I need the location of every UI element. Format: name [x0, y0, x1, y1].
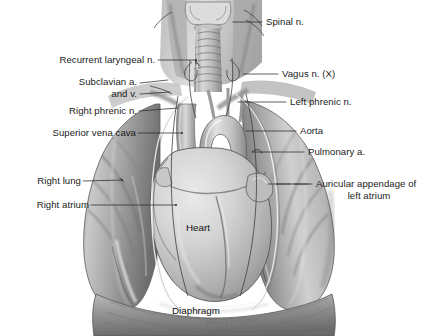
label-text: Right atrium	[37, 199, 89, 210]
label-aorta: Aorta	[300, 125, 323, 137]
label-text-line2: and v.	[79, 88, 137, 100]
label-text-line2: left atrium	[316, 190, 422, 202]
label-text: Spinal n.	[266, 16, 304, 27]
anatomy-figure: Recurrent laryngeal n. Subclavian a. and…	[0, 0, 425, 336]
label-right-lung: Right lung	[37, 175, 81, 187]
label-text: Auricular appendage of	[316, 178, 416, 189]
label-diaphragm: Diaphragm	[172, 305, 220, 316]
label-text: Aorta	[300, 125, 323, 136]
label-text: Subclavian a.	[79, 76, 137, 87]
label-vagus-n: Vagus n. (X)	[282, 68, 335, 80]
label-pulmonary-a: Pulmonary a.	[308, 146, 365, 158]
label-text: Recurrent laryngeal n.	[60, 54, 156, 65]
label-text: Diaphragm	[172, 305, 220, 316]
label-text: Right lung	[37, 175, 81, 186]
label-subclavian-a-and-v: Subclavian a. and v.	[79, 76, 137, 99]
label-right-atrium: Right atrium	[37, 199, 89, 211]
label-text: Pulmonary a.	[308, 146, 365, 157]
label-text: Heart	[186, 222, 210, 233]
label-right-phrenic-n: Right phrenic n.	[69, 105, 137, 117]
label-superior-vena-cava: Superior vena cava	[52, 127, 136, 139]
label-spinal-n: Spinal n.	[266, 16, 304, 28]
label-text: Left phrenic n.	[290, 96, 352, 107]
label-text: Right phrenic n.	[69, 105, 137, 116]
label-text: Vagus n. (X)	[282, 68, 335, 79]
label-auricular-appendage-of-left-atrium: Auricular appendage of left atrium	[316, 178, 422, 201]
label-heart: Heart	[186, 222, 210, 233]
illustration-canvas	[0, 0, 425, 336]
label-text: Superior vena cava	[52, 127, 136, 138]
label-recurrent-laryngeal-n: Recurrent laryngeal n.	[60, 54, 156, 66]
label-left-phrenic-n: Left phrenic n.	[290, 96, 352, 108]
trachea	[194, 28, 222, 92]
